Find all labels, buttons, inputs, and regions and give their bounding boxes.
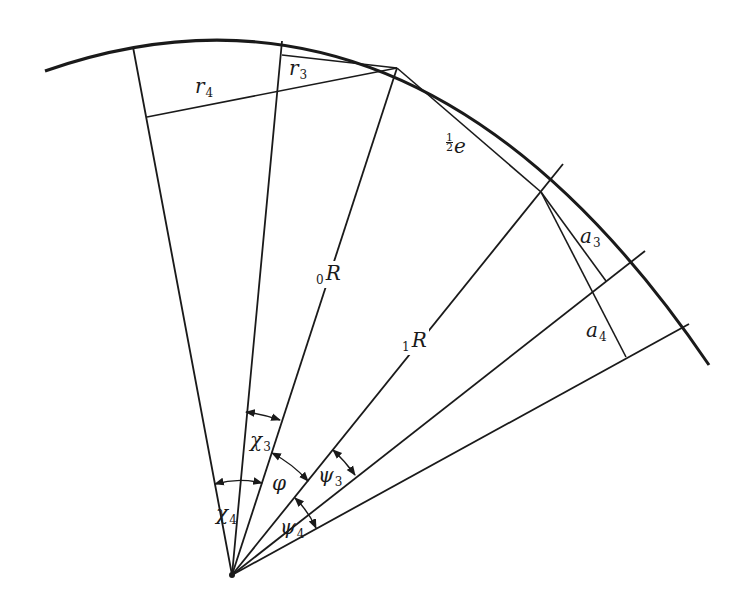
label-R1: 1R <box>400 328 429 355</box>
label-psi3: ψ3 <box>318 465 342 488</box>
radial-1R <box>232 164 563 575</box>
label-half-e: 12e <box>446 133 466 156</box>
outer-arc <box>45 40 709 365</box>
label-a4: a4 <box>586 320 607 343</box>
angle-chi4 <box>215 480 262 484</box>
label-chi4: χ4 <box>216 503 237 526</box>
chord-half-e <box>397 68 541 192</box>
label-r3: r3 <box>289 58 307 81</box>
diagram-canvas <box>0 0 747 604</box>
label-chi3: χ3 <box>250 430 271 453</box>
label-a3: a3 <box>580 226 601 249</box>
angle-chi3 <box>246 412 280 420</box>
apex-point <box>229 572 235 578</box>
label-psi4: ψ4 <box>280 517 304 540</box>
radial-lines <box>133 41 689 575</box>
segment-a4 <box>541 192 626 357</box>
geometry-diagram: r4 r3 12e a3 a4 0R 1R χ3 χ4 φ ψ3 ψ4 <box>0 0 747 604</box>
label-r4: r4 <box>195 76 213 99</box>
chord-r4 <box>147 68 397 117</box>
label-R0: 0R <box>314 261 343 288</box>
label-phi: φ <box>272 473 286 493</box>
radial-chi4 <box>133 47 232 575</box>
